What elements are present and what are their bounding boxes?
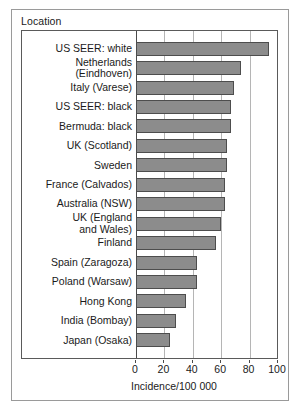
bar (136, 275, 197, 289)
x-axis-title: Incidence/100 000 (12, 380, 288, 392)
bar (136, 139, 227, 153)
x-axis: 020406080100 (135, 360, 278, 376)
bar (136, 217, 221, 231)
category-label: Poland (Warsaw) (22, 272, 136, 291)
bar (136, 197, 225, 211)
bar (136, 158, 227, 172)
category-label: UK (England and Wales) (22, 214, 136, 233)
x-tick-label: 0 (132, 363, 138, 375)
category-label: Netherlands (Eindhoven) (22, 58, 136, 77)
category-label: Bermuda: black (22, 117, 136, 136)
category-label: Finland (22, 233, 136, 252)
bar (136, 236, 216, 250)
bar (136, 314, 176, 328)
x-tick-label: 40 (186, 363, 198, 375)
x-tick-label: 20 (158, 363, 170, 375)
gridline-80 (250, 31, 251, 358)
bar (136, 81, 234, 95)
x-tick-label: 100 (268, 363, 286, 375)
bar (136, 61, 241, 75)
category-label: Spain (Zaragoza) (22, 253, 136, 272)
category-label: Italy (Varese) (22, 78, 136, 97)
x-tick-label: 80 (243, 363, 255, 375)
bar (136, 119, 231, 133)
category-label: UK (Scotland) (22, 136, 136, 155)
category-label: France (Calvados) (22, 175, 136, 194)
bar (136, 294, 186, 308)
category-label: Hong Kong (22, 292, 136, 311)
legend-title: Location (21, 15, 62, 27)
bar (136, 256, 197, 270)
category-label: US SEER: black (22, 97, 136, 116)
bar (136, 333, 170, 347)
category-label: India (Bombay) (22, 311, 136, 330)
bar (136, 178, 225, 192)
plot-panel: US SEER: whiteNetherlands (Eindhoven)Ita… (21, 30, 278, 359)
x-tick-label: 60 (214, 363, 226, 375)
category-axis-labels: US SEER: whiteNetherlands (Eindhoven)Ita… (22, 31, 136, 358)
category-label: Japan (Osaka) (22, 331, 136, 350)
bar (136, 42, 269, 56)
category-label: Sweden (22, 156, 136, 175)
chart-figure: Location US SEER: whiteNetherlands (Eind… (11, 9, 289, 401)
plot-area (136, 31, 277, 358)
bar (136, 100, 231, 114)
